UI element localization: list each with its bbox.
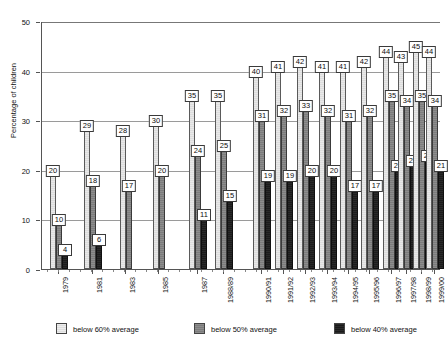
legend-swatch-icon <box>56 323 67 334</box>
bar-value-label: 41 <box>271 61 285 73</box>
bar-value-label: 41 <box>315 61 329 73</box>
legend-label: below 60% average <box>73 325 139 334</box>
x-tick-mark <box>283 270 284 274</box>
x-minor-tick <box>432 270 433 272</box>
x-minor-tick <box>135 270 136 272</box>
x-minor-tick <box>124 270 125 272</box>
bar-value-label: 17 <box>122 180 136 192</box>
x-tick-label: 1993/94 <box>330 277 339 303</box>
x-minor-tick <box>289 270 290 272</box>
x-minor-tick <box>190 270 191 272</box>
x-minor-tick <box>102 270 103 272</box>
bar <box>309 170 315 269</box>
bar <box>159 170 165 269</box>
x-tick-mark <box>369 270 370 274</box>
bar <box>265 175 271 269</box>
y-tick-label: 50 <box>0 18 30 27</box>
bar-value-label: 41 <box>336 61 350 73</box>
gridline <box>42 121 440 122</box>
bar-value-label: 40 <box>249 66 263 78</box>
y-tick-label: 10 <box>0 216 30 225</box>
gridline <box>42 171 440 172</box>
bar-value-label: 17 <box>369 180 383 192</box>
bar-value-label: 25 <box>217 140 231 152</box>
x-tick-label: 1979 <box>61 277 70 293</box>
legend-swatch-icon <box>194 323 205 334</box>
x-minor-tick <box>256 270 257 272</box>
x-minor-tick <box>168 270 169 272</box>
bar-value-label: 34 <box>428 95 442 107</box>
x-tick-mark <box>92 270 93 274</box>
bar-value-label: 30 <box>149 115 163 127</box>
x-tick-label: 1992/93 <box>308 277 317 303</box>
x-minor-tick <box>278 270 279 272</box>
bar-value-label: 24 <box>191 145 205 157</box>
x-minor-tick <box>179 270 180 272</box>
y-tick-mark <box>36 22 40 23</box>
x-minor-tick <box>267 270 268 272</box>
legend-swatch-icon <box>334 323 345 334</box>
x-tick-mark <box>434 270 435 274</box>
x-tick-mark <box>305 270 306 274</box>
bar-value-label: 4 <box>58 244 72 256</box>
x-minor-tick <box>223 270 224 272</box>
bar-value-label: 21 <box>434 160 448 172</box>
x-minor-tick <box>300 270 301 272</box>
bar-value-label: 44 <box>379 46 393 58</box>
x-minor-tick <box>399 270 400 272</box>
x-minor-tick <box>58 270 59 272</box>
gridline <box>42 72 440 73</box>
x-minor-tick <box>344 270 345 272</box>
y-tick-mark <box>36 270 40 271</box>
x-minor-tick <box>201 270 202 272</box>
x-tick-label: 1988/89 <box>226 277 235 303</box>
y-tick-label: 0 <box>0 266 30 275</box>
x-tick-label: 1999/00 <box>437 277 446 303</box>
x-tick-label: 1987 <box>200 277 209 293</box>
bar-value-label: 32 <box>277 105 291 117</box>
y-tick-mark <box>36 220 40 221</box>
y-axis-ticks: 01020304050 <box>0 0 41 270</box>
bar-value-label: 35 <box>185 90 199 102</box>
x-tick-mark <box>261 270 262 274</box>
x-minor-tick <box>80 270 81 272</box>
x-minor-tick <box>355 270 356 272</box>
x-tick-label: 1996/97 <box>394 277 403 303</box>
bar <box>438 165 444 269</box>
gridline <box>42 22 440 23</box>
x-minor-tick <box>333 270 334 272</box>
y-tick-label: 20 <box>0 167 30 176</box>
bar-value-label: 42 <box>357 56 371 68</box>
x-minor-tick <box>388 270 389 272</box>
x-tick-mark <box>158 270 159 274</box>
bar-value-label: 31 <box>342 110 356 122</box>
bar-value-label: 19 <box>283 170 297 182</box>
x-tick-label: 1983 <box>128 277 137 293</box>
x-tick-mark <box>125 270 126 274</box>
bar-value-label: 31 <box>255 110 269 122</box>
bar-value-label: 43 <box>394 51 408 63</box>
x-tick-label: 1990/91 <box>264 277 273 303</box>
x-minor-tick <box>69 270 70 272</box>
gridline <box>42 220 440 221</box>
x-tick-label: 1991/92 <box>286 277 295 303</box>
bar-value-label: 42 <box>293 56 307 68</box>
bar-value-label: 32 <box>363 105 377 117</box>
x-tick-label: 1985 <box>161 277 170 293</box>
bar <box>287 175 293 269</box>
x-tick-mark <box>391 270 392 274</box>
x-minor-tick <box>146 270 147 272</box>
x-tick-label: 1994/95 <box>351 277 360 303</box>
x-tick-mark <box>348 270 349 274</box>
x-minor-tick <box>410 270 411 272</box>
x-minor-tick <box>113 270 114 272</box>
bar-value-label: 44 <box>422 46 436 58</box>
bar-value-label: 20 <box>46 165 60 177</box>
bar-value-label: 32 <box>321 105 335 117</box>
bar <box>201 214 207 269</box>
plot-area: 2010429186281730203524113525154031194132… <box>41 22 440 270</box>
x-minor-tick <box>157 270 158 272</box>
x-tick-mark <box>197 270 198 274</box>
x-tick-label: 1995/96 <box>372 277 381 303</box>
